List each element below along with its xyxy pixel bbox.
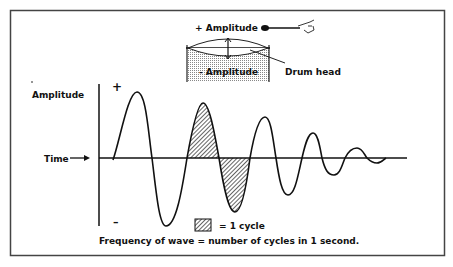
wave-graph: Time Amplitude + – = 1 cycle Frequency o… <box>31 80 407 246</box>
cycle-legend-label: = 1 cycle <box>219 221 265 231</box>
plus-sign: + <box>112 80 122 94</box>
damped-waveform <box>113 92 386 226</box>
drum-head-label: Drum head <box>285 67 341 77</box>
time-axis-label: Time <box>44 154 69 164</box>
drumstick-tip <box>261 25 269 31</box>
hand-icon <box>298 20 314 33</box>
minus-sign: – <box>113 216 119 229</box>
diagram-canvas: + Amplitude - Amplitude Drum head Time A… <box>0 0 453 267</box>
time-arrow-head <box>84 155 90 161</box>
minus-amplitude-label: - Amplitude <box>199 67 258 77</box>
frequency-caption: Frequency of wave = number of cycles in … <box>99 236 359 246</box>
drum-illustration: + Amplitude - Amplitude Drum head <box>186 20 341 82</box>
amplitude-axis-label: Amplitude <box>32 90 84 100</box>
cycle-legend-swatch <box>195 219 211 231</box>
amplitude-dot <box>31 81 33 83</box>
plus-amplitude-label: + Amplitude <box>195 23 258 33</box>
